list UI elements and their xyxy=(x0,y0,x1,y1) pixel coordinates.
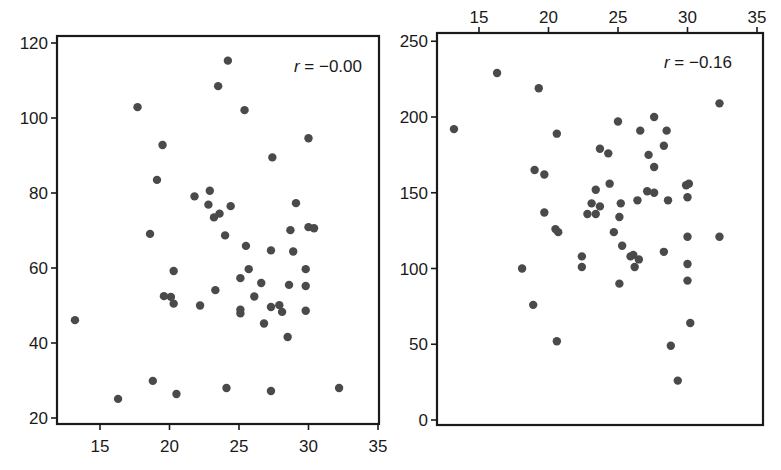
data-point xyxy=(146,230,154,238)
data-point xyxy=(335,384,343,392)
data-point xyxy=(304,134,312,142)
y-tick-label: 80 xyxy=(29,184,48,203)
data-point xyxy=(169,299,177,307)
data-point xyxy=(267,387,275,395)
scatterplot-figure: 204060801001201520253035r = −0.00 050100… xyxy=(0,0,781,470)
data-point xyxy=(682,181,690,189)
data-point xyxy=(578,252,586,260)
data-point xyxy=(196,301,204,309)
x-tick-label: 25 xyxy=(609,8,628,27)
data-point xyxy=(224,56,232,64)
plot-frame xyxy=(57,36,379,424)
y-tick-label: 60 xyxy=(29,259,48,278)
data-point xyxy=(302,307,310,315)
data-point xyxy=(617,199,625,207)
data-point xyxy=(250,292,258,300)
right-scatterplot: 0501001502002501520253035r = −0.16 xyxy=(400,8,767,430)
data-point xyxy=(554,228,562,236)
x-tick-label: 20 xyxy=(539,8,558,27)
data-point xyxy=(236,274,244,282)
data-point xyxy=(206,187,214,195)
data-point xyxy=(674,376,682,384)
data-point xyxy=(660,248,668,256)
x-tick-label: 35 xyxy=(748,8,767,27)
x-tick-label: 25 xyxy=(230,437,249,456)
left-scatterplot: 204060801001201520253035r = −0.00 xyxy=(20,34,388,456)
y-tick-label: 100 xyxy=(400,260,428,279)
data-point xyxy=(267,246,275,254)
y-tick-label: 120 xyxy=(20,34,48,53)
data-point xyxy=(215,209,223,217)
data-point xyxy=(214,82,222,90)
data-point xyxy=(553,337,561,345)
data-point xyxy=(614,117,622,125)
data-point xyxy=(260,319,268,327)
data-point xyxy=(530,166,538,174)
x-tick-label: 35 xyxy=(369,437,388,456)
data-point xyxy=(630,263,638,271)
data-point xyxy=(71,316,79,324)
data-point xyxy=(683,193,691,201)
data-point xyxy=(664,196,672,204)
data-point xyxy=(596,202,604,210)
data-point xyxy=(204,200,212,208)
data-point xyxy=(158,141,166,149)
data-point xyxy=(650,189,658,197)
data-point xyxy=(667,342,675,350)
x-tick-label: 30 xyxy=(678,8,697,27)
x-tick-label: 20 xyxy=(160,437,179,456)
data-point xyxy=(683,260,691,268)
data-point xyxy=(715,232,723,240)
data-point xyxy=(242,242,250,250)
y-tick-label: 100 xyxy=(20,109,48,128)
data-point xyxy=(286,226,294,234)
data-point xyxy=(683,276,691,284)
data-point xyxy=(133,103,141,111)
data-point xyxy=(268,153,276,161)
data-point xyxy=(578,263,586,271)
data-point xyxy=(583,210,591,218)
x-tick-label: 15 xyxy=(91,437,110,456)
y-tick-label: 20 xyxy=(29,409,48,428)
data-point xyxy=(149,377,157,385)
data-point xyxy=(592,186,600,194)
data-point xyxy=(257,279,265,287)
data-point xyxy=(310,224,318,232)
data-point xyxy=(643,187,651,195)
data-point xyxy=(267,303,275,311)
data-point xyxy=(715,99,723,107)
correlation-annotation: r = −0.00 xyxy=(294,57,362,76)
data-point xyxy=(285,281,293,289)
y-tick-label: 0 xyxy=(419,411,428,430)
data-point xyxy=(450,125,458,133)
data-point xyxy=(292,199,300,207)
data-point xyxy=(529,301,537,309)
data-point xyxy=(540,208,548,216)
y-tick-label: 200 xyxy=(400,108,428,127)
data-point xyxy=(302,282,310,290)
data-point xyxy=(604,149,612,157)
data-point xyxy=(540,170,548,178)
data-point xyxy=(605,179,613,187)
data-point xyxy=(615,213,623,221)
y-tick-label: 150 xyxy=(400,184,428,203)
data-point xyxy=(190,192,198,200)
data-point xyxy=(222,384,230,392)
x-tick-label: 15 xyxy=(470,8,489,27)
data-point xyxy=(278,308,286,316)
data-point xyxy=(172,390,180,398)
data-point xyxy=(236,309,244,317)
data-point xyxy=(592,210,600,218)
data-point xyxy=(633,196,641,204)
data-point xyxy=(553,129,561,137)
data-point xyxy=(644,151,652,159)
data-point xyxy=(636,126,644,134)
data-point xyxy=(226,202,234,210)
data-point xyxy=(587,199,595,207)
x-tick-label: 30 xyxy=(299,437,318,456)
data-point xyxy=(493,69,501,77)
data-point xyxy=(635,255,643,263)
data-point xyxy=(535,84,543,92)
data-point xyxy=(245,265,253,273)
data-point xyxy=(153,176,161,184)
